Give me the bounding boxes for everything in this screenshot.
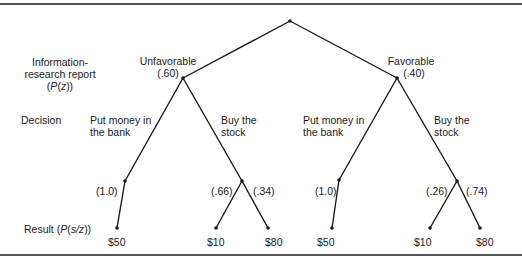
node-left-stock [240, 179, 244, 183]
leaf-right-bank [330, 226, 334, 230]
left-bank-decision: Put money in the bank [90, 114, 151, 138]
right-stock-low-prob: (.26) [426, 185, 448, 197]
right-stock-decision: Buy the stock [434, 114, 470, 138]
result-row-label: Result (P(s/z)) [24, 223, 91, 235]
right-bank-decision: Put money in the bank [303, 114, 364, 138]
right-bank-result: $50 [317, 236, 335, 248]
left-stock-low-prob: (.66) [211, 185, 233, 197]
leaf-right-stock-high [478, 226, 482, 230]
left-stock-low-result: $10 [207, 236, 225, 248]
leaf-left-bank [115, 226, 119, 230]
left-bank-result: $50 [108, 236, 126, 248]
right-stock-low-result: $10 [414, 236, 432, 248]
node-right-bank [337, 178, 341, 182]
report-row-label: Information- research report (P(z)) [16, 56, 104, 92]
edge-left-bank-result [117, 181, 125, 228]
right-stock-high-result: $80 [476, 236, 494, 248]
leaf-left-stock-high [266, 226, 270, 230]
right-bank-prob: (1.0) [315, 185, 337, 197]
left-stock-high-result: $80 [265, 236, 283, 248]
left-bank-prob: (1.0) [96, 185, 118, 197]
left-stock-high-prob: (.34) [253, 185, 275, 197]
node-root [288, 19, 292, 23]
right-stock-high-prob: (.74) [466, 185, 488, 197]
leaf-left-stock-low [214, 226, 218, 230]
node-left-bank [123, 179, 127, 183]
report-label-line3: (P(z)) [16, 80, 104, 92]
decision-row-label: Decision [21, 114, 61, 126]
unfavorable-label: Unfavorable (.60) [128, 55, 208, 79]
report-label-line2: research report [16, 68, 104, 80]
favorable-label: Favorable (.40) [380, 55, 442, 79]
leaf-right-stock-low [428, 226, 432, 230]
left-stock-decision: Buy the stock [221, 114, 257, 138]
report-label-line1: Information- [16, 56, 104, 68]
node-right-stock [455, 179, 459, 183]
